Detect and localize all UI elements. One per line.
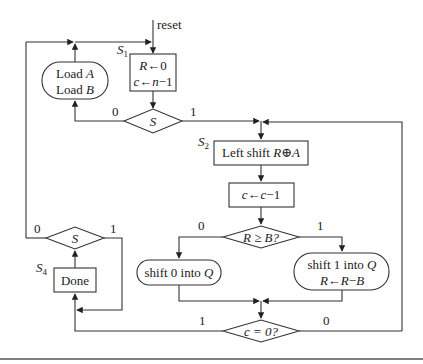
- decrement-text: c←c−1: [242, 187, 280, 202]
- shift0-merge-line: [179, 285, 259, 301]
- s1-label: S1: [117, 42, 128, 59]
- flowchart: reset Load A Load B S1 R←0 c←n−1 S 0 1 S…: [0, 0, 423, 364]
- start-s-branch1: 1: [190, 104, 197, 119]
- done-s-text: S: [72, 231, 79, 246]
- c-eq-0-text: c = 0?: [244, 324, 279, 339]
- start-s-text: S: [150, 114, 157, 129]
- c-eq-0-branch1: 1: [199, 313, 206, 328]
- shift1-line1: shift 1 into Q: [308, 257, 378, 272]
- r-ge-b-branch0: 0: [198, 218, 205, 233]
- r-ge-b-branch1: 1: [317, 218, 324, 233]
- reset-label: reset: [157, 17, 182, 32]
- s2-label: S2: [198, 134, 209, 151]
- c-eq-0-branch0: 0: [323, 313, 330, 328]
- s1-line1: R←0: [138, 58, 166, 73]
- r-ge-b-text: R ≥ B?: [242, 230, 280, 245]
- r-ge-b-branch0-line: [179, 237, 223, 258]
- r-ge-b-branch1-line: [299, 237, 342, 251]
- done-text: Done: [61, 273, 89, 288]
- s2-text: Left shift R⊕A: [222, 145, 300, 160]
- start-s-branch0: 0: [112, 104, 119, 119]
- shift1-line2: R←R−B: [319, 273, 364, 288]
- s4-label: S4: [36, 260, 48, 277]
- shift0-text: shift 0 into Q: [145, 265, 215, 280]
- done-s-branch0: 0: [34, 221, 41, 236]
- load-a-text: Load A: [56, 66, 94, 81]
- s1-line2: c←n−1: [133, 74, 172, 89]
- done-s-branch1: 1: [110, 221, 117, 236]
- load-b-text: Load B: [56, 82, 94, 97]
- shift1-merge-line: [263, 290, 342, 301]
